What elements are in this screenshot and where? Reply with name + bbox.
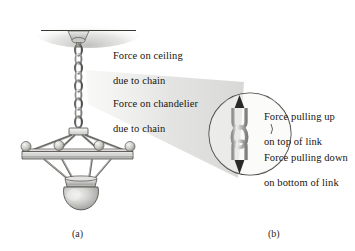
label-force-on-ceiling-line1: Force on ceiling bbox=[113, 50, 183, 61]
label-force-on-chandelier-line1: Force on chandelier bbox=[113, 98, 198, 109]
physics-figure: Force on ceiling due to chain Force on c… bbox=[0, 0, 355, 251]
label-force-pulling-up-line1: Force pulling up bbox=[264, 111, 335, 122]
panel-label-b: (b) bbox=[268, 228, 280, 239]
label-force-on-ceiling-line2: due to chain bbox=[113, 75, 166, 86]
chandelier-chain bbox=[75, 44, 82, 127]
label-force-on-chandelier: Force on chandelier due to chain bbox=[102, 86, 198, 147]
label-force-pulling-down: Force pulling down on bottom of link bbox=[253, 140, 348, 201]
label-force-pulling-down-line2: on bottom of link bbox=[264, 177, 339, 188]
label-force-on-chandelier-line2: due to chain bbox=[113, 123, 166, 134]
panel-label-a: (a) bbox=[72, 228, 83, 239]
label-force-pulling-down-line1: Force pulling down bbox=[264, 152, 348, 163]
